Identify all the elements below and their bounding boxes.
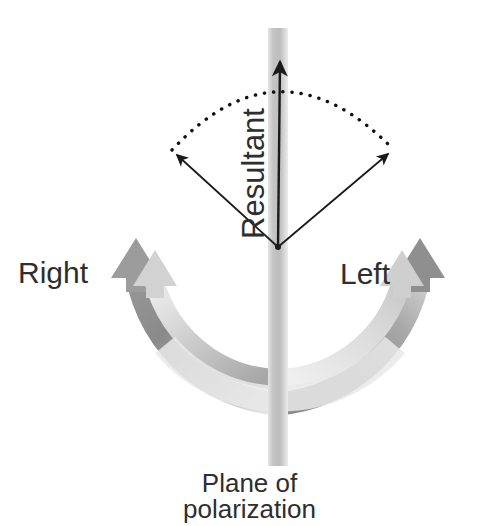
label-left: Left (340, 259, 390, 289)
label-right: Right (18, 258, 88, 288)
vector-origin-point (275, 244, 281, 250)
polarization-diagram: Right Left Resultant Plane of polarizati… (0, 0, 485, 526)
left-component-vector (278, 154, 388, 247)
label-resultant: Resultant (238, 108, 269, 239)
label-plane-line2: polarization (0, 496, 485, 522)
label-plane-line1: Plane of (0, 470, 485, 496)
label-plane-of-polarization: Plane of polarization (0, 470, 485, 522)
